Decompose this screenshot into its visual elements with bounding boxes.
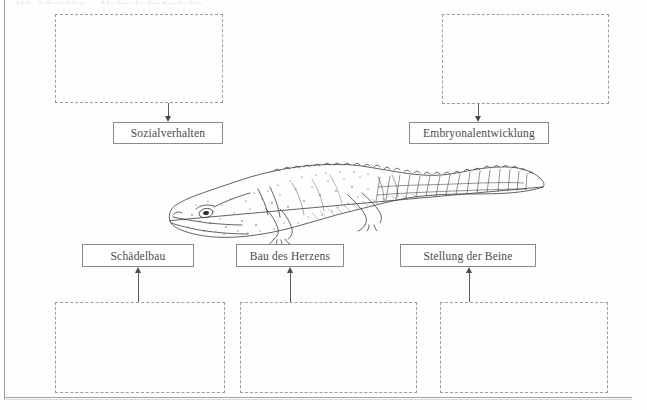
- worksheet-page: Abb. Arbeitsblatt — Merkmale der Krokodi…: [0, 0, 647, 410]
- answer-box-bau-des-herzens[interactable]: [240, 302, 417, 393]
- term-box-stellung-der-beine[interactable]: Stellung der Beine: [400, 244, 536, 267]
- answer-box-schaedelbau[interactable]: [55, 302, 225, 393]
- term-box-schaedelbau[interactable]: Schädelbau: [82, 244, 194, 267]
- term-label-embryonalentwicklung: Embryonalentwicklung: [423, 127, 535, 139]
- page-border-bottom: [4, 397, 632, 398]
- crocodile-illustration: [162, 143, 548, 245]
- answer-box-stellung-der-beine[interactable]: [440, 302, 608, 393]
- term-label-stellung-der-beine: Stellung der Beine: [423, 250, 512, 262]
- answer-box-sozialverhalten[interactable]: [55, 14, 223, 103]
- term-label-sozialverhalten: Sozialverhalten: [131, 127, 206, 139]
- term-box-sozialverhalten[interactable]: Sozialverhalten: [113, 122, 223, 144]
- answer-box-embryonalentwicklung[interactable]: [442, 14, 609, 104]
- term-box-bau-des-herzens[interactable]: Bau des Herzens: [236, 244, 344, 267]
- cropped-header-text: Abb. Arbeitsblatt — Merkmale der Krokodi…: [14, 0, 614, 4]
- page-border-left: [4, 0, 5, 399]
- term-label-schaedelbau: Schädelbau: [110, 250, 165, 262]
- term-label-bau-des-herzens: Bau des Herzens: [250, 250, 330, 262]
- page-border-bottom-shadow: [4, 399, 632, 400]
- term-box-embryonalentwicklung[interactable]: Embryonalentwicklung: [409, 122, 549, 144]
